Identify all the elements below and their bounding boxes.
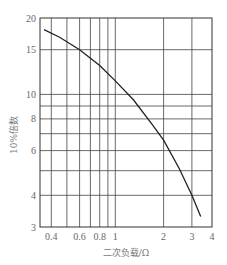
y-tick-label: 10 [26,89,36,100]
y-tick-label: 3 [31,222,36,233]
x-tick-label: 0.8 [93,231,106,242]
y-axis-label: 10%倍数 [8,116,19,154]
y-tick-label: 4 [31,190,36,201]
y-tick-label: 6 [31,145,36,156]
data-curve [44,30,201,217]
y-axis-ticks: 3468101520 [26,13,36,233]
y-tick-label: 15 [26,44,36,55]
x-tick-label: 3 [189,231,194,242]
x-tick-label: 0.4 [45,231,58,242]
x-axis-ticks: 0.40.60.81234 [45,231,214,242]
x-tick-label: 4 [210,231,215,242]
y-tick-label: 20 [26,13,36,24]
grid-lines [40,18,212,227]
chart: 3468101520 0.40.60.81234 二次负载/Ω 10%倍数 [0,0,227,265]
x-tick-label: 0.6 [73,231,86,242]
x-axis-label: 二次负载/Ω [103,247,150,258]
x-tick-label: 2 [161,231,166,242]
y-tick-label: 8 [31,113,36,124]
x-tick-label: 1 [113,231,118,242]
